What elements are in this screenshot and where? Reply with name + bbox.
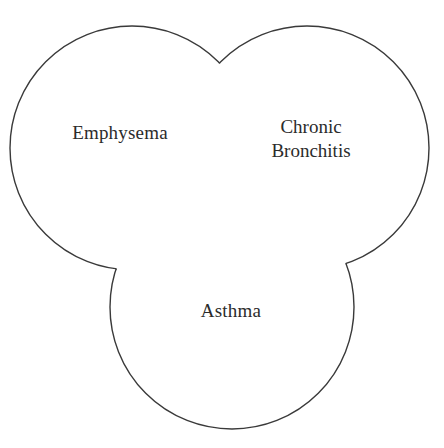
label-asthma: Asthma (201, 300, 262, 321)
label-emphysema: Emphysema (72, 122, 168, 143)
venn-diagram-figure: Emphysema Chronic Bronchitis Asthma (0, 0, 444, 448)
label-chronic-bronchitis-line2: Bronchitis (271, 140, 350, 161)
venn-diagram-canvas: Emphysema Chronic Bronchitis Asthma (0, 0, 444, 448)
label-chronic-bronchitis-line1: Chronic (280, 116, 341, 137)
